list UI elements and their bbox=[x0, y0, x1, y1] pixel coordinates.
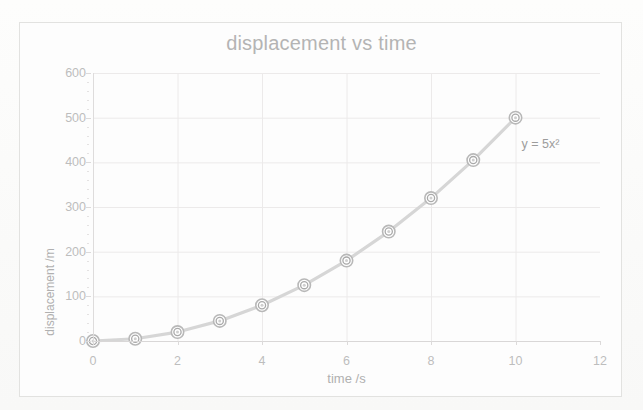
y-axis-tick-mark bbox=[86, 341, 91, 342]
data-point-marker bbox=[425, 192, 437, 204]
y-axis-tick-label: 300 bbox=[42, 200, 86, 214]
y-axis-minor-tick bbox=[87, 323, 89, 324]
x-axis-tick-label: 4 bbox=[259, 354, 266, 368]
y-axis-tick-label: 0 bbox=[42, 334, 86, 348]
plot-area bbox=[93, 73, 600, 341]
data-point-marker bbox=[256, 299, 268, 311]
y-axis-tick-mark bbox=[86, 162, 91, 163]
y-axis-minor-tick bbox=[87, 180, 89, 181]
y-axis-minor-tick bbox=[87, 270, 89, 271]
series-line bbox=[93, 118, 516, 341]
y-axis-tick-mark bbox=[86, 118, 91, 119]
y-axis-tick-label: 100 bbox=[42, 289, 86, 303]
data-point-marker bbox=[298, 279, 310, 291]
y-axis-tick-label: 500 bbox=[42, 111, 86, 125]
x-axis-title: time /s bbox=[93, 371, 600, 386]
y-axis-minor-tick bbox=[87, 82, 89, 83]
y-axis-minor-tick bbox=[87, 109, 89, 110]
x-axis-tick-label: 6 bbox=[343, 354, 350, 368]
chart-screenshot: displacement vs time displacement /m 010… bbox=[0, 0, 643, 410]
y-axis-minor-tick bbox=[87, 91, 89, 92]
y-axis-tick-mark bbox=[86, 296, 91, 297]
data-series-displacement bbox=[93, 73, 600, 341]
y-axis-tick-labels: 0100200300400500600 bbox=[40, 73, 86, 341]
x-axis-tick-mark bbox=[93, 341, 94, 345]
y-axis-minor-tick bbox=[87, 278, 89, 279]
x-axis-tick-mark bbox=[178, 341, 179, 345]
y-axis-minor-tick bbox=[87, 136, 89, 137]
data-point-marker bbox=[340, 254, 352, 266]
y-axis-minor-tick bbox=[87, 100, 89, 101]
y-axis-minor-tick bbox=[87, 287, 89, 288]
y-axis-line bbox=[93, 73, 94, 342]
y-axis-minor-tick bbox=[87, 189, 89, 190]
series-markers bbox=[87, 111, 522, 347]
y-axis-minor-tick bbox=[87, 243, 89, 244]
y-axis-minor-tick bbox=[87, 127, 89, 128]
x-axis-tick-label: 8 bbox=[428, 354, 435, 368]
y-axis-minor-tick bbox=[87, 225, 89, 226]
y-axis-minor-tick bbox=[87, 332, 89, 333]
y-axis-minor-tick bbox=[87, 144, 89, 145]
x-axis-tick-mark bbox=[262, 341, 263, 345]
data-point-marker bbox=[129, 333, 141, 345]
data-point-marker bbox=[171, 326, 183, 338]
equation-annotation: y = 5x² bbox=[522, 137, 560, 151]
data-point-marker bbox=[509, 111, 521, 123]
y-axis-tick-mark bbox=[86, 252, 91, 253]
y-axis-minor-tick bbox=[87, 216, 89, 217]
y-axis-minor-tick bbox=[87, 171, 89, 172]
y-axis-tick-label: 600 bbox=[42, 66, 86, 80]
x-axis-tick-label: 10 bbox=[509, 354, 523, 368]
y-axis-minor-tick bbox=[87, 314, 89, 315]
x-axis-tick-mark bbox=[347, 341, 348, 345]
chart-title: displacement vs time bbox=[0, 32, 643, 55]
y-axis-minor-tick bbox=[87, 261, 89, 262]
y-axis-minor-tick bbox=[87, 198, 89, 199]
x-axis-tick-mark bbox=[600, 341, 601, 345]
x-axis-tick-labels: 024681012 bbox=[93, 350, 600, 368]
x-axis-tick-label: 12 bbox=[593, 354, 607, 368]
data-point-marker bbox=[383, 225, 395, 237]
x-axis-tick-label: 2 bbox=[174, 354, 181, 368]
y-axis-minor-tick bbox=[87, 305, 89, 306]
y-axis-minor-tick bbox=[87, 234, 89, 235]
x-axis-tick-mark bbox=[516, 341, 517, 345]
data-point-marker bbox=[467, 154, 479, 166]
y-axis-tick-mark bbox=[86, 73, 91, 74]
x-axis-tick-mark bbox=[431, 341, 432, 345]
x-axis-tick-label: 0 bbox=[90, 354, 97, 368]
y-axis-tick-mark bbox=[86, 207, 91, 208]
y-axis-minor-tick bbox=[87, 153, 89, 154]
y-axis-tick-label: 200 bbox=[42, 245, 86, 259]
data-point-marker bbox=[214, 315, 226, 327]
y-axis-tick-label: 400 bbox=[42, 155, 86, 169]
